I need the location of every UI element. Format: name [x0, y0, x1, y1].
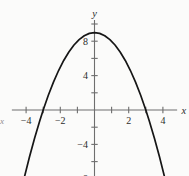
x-axis-label: x — [181, 105, 187, 116]
x-tick-label: −2 — [55, 115, 66, 126]
parabola-plot: −4−224 84−4−8 x y — [0, 0, 189, 176]
x-axis-tick-labels: −4−224 — [21, 115, 166, 126]
x-tick-label: −4 — [21, 115, 32, 126]
y-tick-label: −4 — [77, 139, 88, 150]
x-tick-label: 2 — [126, 115, 131, 126]
y-axis-tick-labels: 84−4−8 — [77, 36, 88, 176]
y-axis-label: y — [91, 8, 97, 19]
y-tick-label: 4 — [83, 70, 88, 81]
figure-container: −4−224 84−4−8 x y x — [0, 0, 189, 176]
y-tick-label: 8 — [83, 36, 88, 47]
y-tick-label: −8 — [77, 173, 88, 176]
x-tick-label: 4 — [160, 115, 165, 126]
edge-fragment-glyph: x — [0, 117, 6, 126]
axes-group — [12, 21, 176, 176]
